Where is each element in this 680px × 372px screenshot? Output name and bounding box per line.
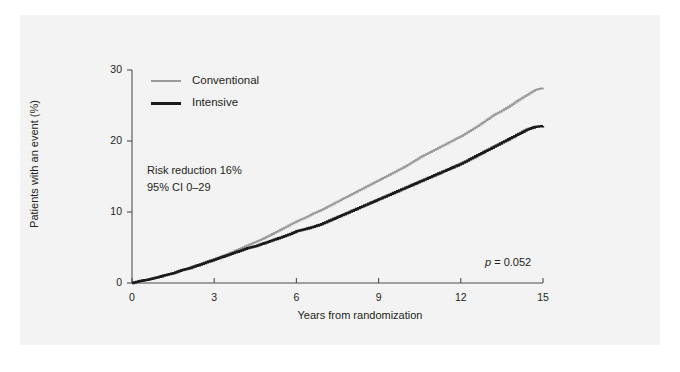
x-tick-label: 12 [441, 291, 481, 303]
x-tick-label: 3 [194, 291, 234, 303]
figure-canvas: Patients with an event (%) Years from ra… [0, 0, 680, 372]
y-tick-label: 30 [72, 63, 122, 75]
p-value-annotation: p = 0.052 [485, 256, 531, 268]
series-line-intensive [132, 126, 543, 283]
x-axis-title: Years from randomization [210, 309, 510, 321]
legend-label-intensive: Intensive [192, 96, 238, 108]
y-tick-label: 20 [72, 134, 122, 146]
risk-reduction-annotation: Risk reduction 16% [147, 164, 242, 176]
legend-swatch-intensive [151, 102, 181, 105]
x-tick-label: 15 [523, 291, 563, 303]
x-tick-label: 6 [276, 291, 316, 303]
p-value-number: = 0.052 [491, 256, 531, 268]
y-axis-title: Patients with an event (%) [28, 84, 40, 244]
x-tick-label: 9 [359, 291, 399, 303]
y-tick-label: 0 [72, 276, 122, 288]
y-tick-label: 10 [72, 205, 122, 217]
legend-label-conventional: Conventional [192, 74, 259, 86]
legend-swatch-conventional [151, 80, 181, 82]
axes-group [127, 70, 543, 283]
x-tick-label: 0 [112, 291, 152, 303]
confidence-interval-annotation: 95% CI 0–29 [147, 181, 211, 193]
